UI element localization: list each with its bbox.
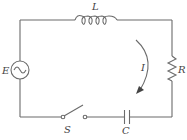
ac-source [11,61,29,79]
source-label: E [1,65,10,76]
capacitor [125,110,130,124]
resistor [168,56,176,81]
switch-blade [64,105,83,116]
switch-terminal-right [83,115,87,119]
switch[interactable] [61,105,87,119]
sine-wave-icon [14,67,26,73]
resistor-label: R [177,64,186,75]
inductor-label: L [91,1,99,12]
circuit-diagram: L E R S C I [0,0,187,140]
switch-label: S [64,124,71,135]
inductor [75,16,117,25]
current-label: I [140,62,146,73]
arrowhead-icon [136,86,144,94]
capacitor-label: C [122,125,130,136]
